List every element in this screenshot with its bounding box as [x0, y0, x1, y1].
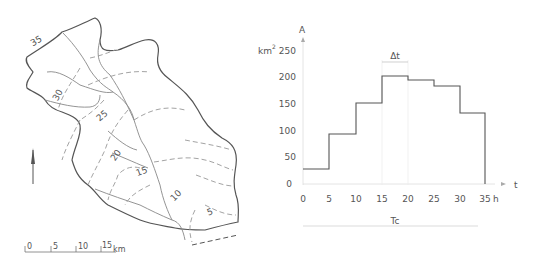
y-axis-arrow-icon [301, 37, 305, 42]
scale-tick-0: 0 [27, 242, 32, 251]
tc-label: Tc [390, 216, 400, 226]
watershed-boundary [26, 18, 238, 230]
figure: 35 30 25 20 15 10 5 0 5 10 15 km [0, 0, 541, 262]
outlet-line [192, 235, 238, 245]
isochrone-label-20: 20 [108, 147, 123, 162]
y-tick-200: 200 [279, 72, 296, 82]
north-arrow-icon [31, 148, 35, 184]
y-tick-100: 100 [279, 126, 296, 136]
y-axis-symbol: A [299, 25, 306, 35]
scale-tick-15: 15 [102, 241, 112, 250]
scale-unit: km [113, 245, 126, 254]
x-tick-30: 30 [454, 194, 466, 204]
y-tick-0: 0 [286, 179, 292, 189]
y-tick-50: 50 [285, 152, 297, 162]
isochrone-label-30: 30 [51, 87, 66, 102]
x-tick-10: 10 [350, 194, 362, 204]
x-tick-20: 20 [402, 194, 414, 204]
isochrone-label-5: 5 [205, 206, 214, 217]
isochrone-label-35: 35 [29, 34, 44, 48]
x-tick-25: 25 [428, 194, 439, 204]
x-tick-0: 0 [300, 194, 306, 204]
x-axis-symbol: t [514, 180, 518, 190]
y-axis-unit: km2 [258, 43, 276, 56]
x-axis-arrow-icon [501, 182, 506, 186]
y-tick-150: 150 [279, 99, 296, 109]
isochrone-label-15: 15 [135, 165, 149, 178]
y-tick-250: 250 [279, 46, 296, 56]
scale-tick-10: 10 [78, 242, 88, 251]
delta-t-label: Δt [390, 51, 400, 61]
x-tick-35: 35 [479, 194, 490, 204]
scale-tick-5: 5 [53, 242, 58, 251]
isochrone-label-25: 25 [94, 108, 109, 123]
x-tick-15: 15 [376, 194, 387, 204]
x-axis-unit: h [493, 194, 499, 204]
histogram-steps [303, 76, 485, 184]
scale-bar: 0 5 10 15 km [25, 241, 126, 254]
watershed-map: 35 30 25 20 15 10 5 0 5 10 15 km [25, 18, 239, 254]
isochrone-label-10: 10 [168, 188, 183, 203]
x-tick-5: 5 [326, 194, 332, 204]
time-area-histogram: A km2 0 50 100 150 200 250 0 5 10 15 20 … [258, 25, 518, 226]
